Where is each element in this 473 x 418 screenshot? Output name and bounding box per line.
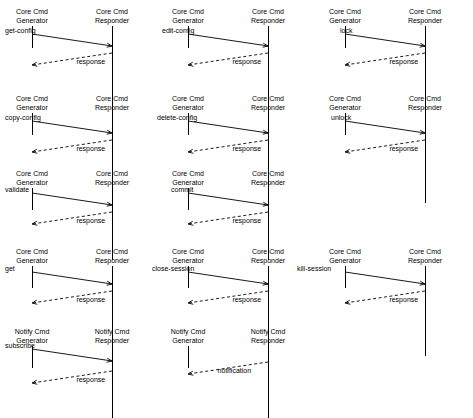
actor-label-line: Responder bbox=[238, 337, 298, 346]
actor-left-notification: Notify CmdGenerator bbox=[158, 328, 218, 345]
message-label-notification-0: notification bbox=[218, 367, 251, 375]
actor-label-line: Notify Cmd bbox=[238, 328, 298, 337]
actor-right-notification: Notify CmdResponder bbox=[238, 328, 298, 345]
actor-label-line: Generator bbox=[158, 337, 218, 346]
actor-label-line: Notify Cmd bbox=[158, 328, 218, 337]
